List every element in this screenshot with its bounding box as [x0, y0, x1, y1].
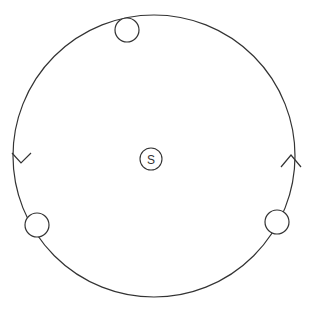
sun: S: [140, 148, 162, 170]
planet-top: [115, 18, 139, 42]
direction-arrow-left: [12, 153, 31, 163]
direction-arrow-right: [281, 155, 301, 167]
orbit-diagram: S: [0, 0, 316, 312]
planet-lower-left: [25, 213, 49, 237]
planet-lower-right: [265, 210, 289, 234]
sun-label: S: [147, 153, 155, 167]
